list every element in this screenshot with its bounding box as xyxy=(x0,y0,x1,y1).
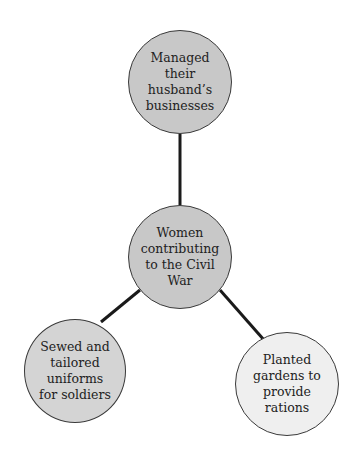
node-center: Women contributing to the Civil War xyxy=(128,205,232,309)
node-bottom-left: Sewed and tailored uniforms for soldiers xyxy=(24,319,126,423)
node-top-label: Managed their husband’s businesses xyxy=(146,50,215,114)
node-top: Managed their husband’s businesses xyxy=(128,30,232,134)
concept-diagram: Managed their husband’s businesses Women… xyxy=(0,0,359,452)
connector-bottom-left xyxy=(101,290,140,322)
node-bottom-right-label: Planted gardens to provide rations xyxy=(253,352,321,416)
node-bottom-right: Planted gardens to provide rations xyxy=(235,332,339,436)
connector-bottom-right xyxy=(220,290,264,340)
node-bottom-left-label: Sewed and tailored uniforms for soldiers xyxy=(39,339,111,403)
node-center-label: Women contributing to the Civil War xyxy=(141,225,220,289)
